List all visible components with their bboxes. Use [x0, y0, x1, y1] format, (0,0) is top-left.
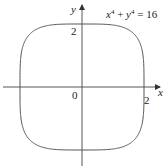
- y-tick-label: 2: [71, 25, 77, 37]
- y-axis-label: y: [70, 3, 76, 15]
- diagram-canvas: y x 0 2 2 x4 + y4 = 16: [0, 0, 165, 167]
- eq-plus: +: [114, 8, 126, 20]
- eq-equals: = 16: [135, 8, 158, 20]
- equation-label: x4 + y4 = 16: [105, 8, 158, 20]
- origin-label: 0: [72, 89, 78, 101]
- x-tick-label: 2: [144, 94, 150, 106]
- x-axis-label: x: [157, 86, 163, 98]
